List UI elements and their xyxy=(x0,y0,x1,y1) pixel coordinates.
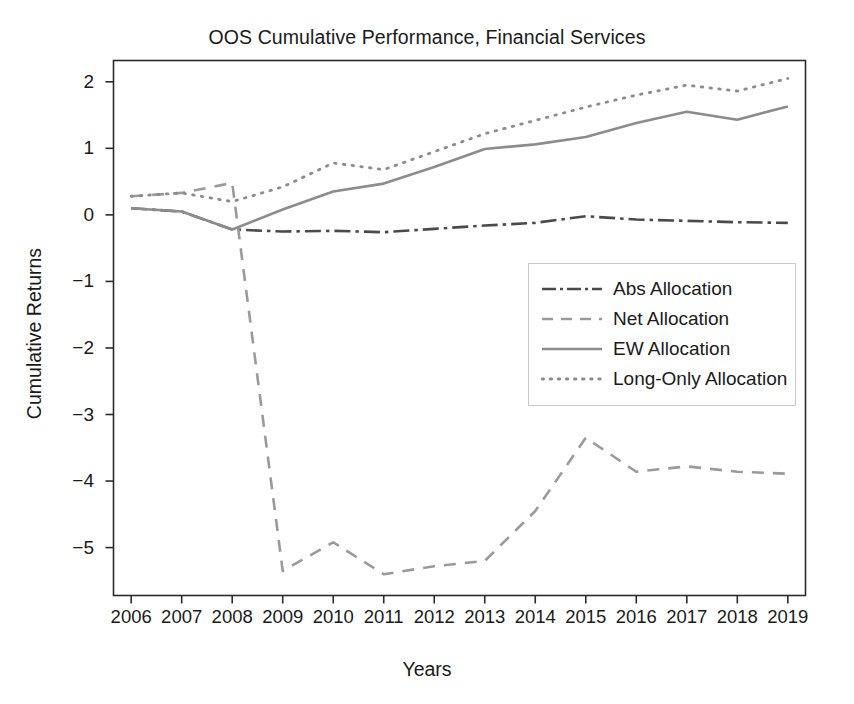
legend-label-net-allocation: Net Allocation xyxy=(613,308,729,330)
legend-label-ew-allocation: EW Allocation xyxy=(613,338,730,360)
legend-swatch-net-allocation xyxy=(541,310,603,328)
legend-label-abs-allocation: Abs Allocation xyxy=(613,278,732,300)
legend: Abs Allocation Net Allocation EW Allocat… xyxy=(528,263,796,406)
series-line-long-only-allocation xyxy=(131,78,788,201)
legend-label-long-only-allocation: Long-Only Allocation xyxy=(613,368,787,390)
legend-swatch-long-only-allocation xyxy=(541,370,603,388)
legend-item-long-only-allocation[interactable]: Long-Only Allocation xyxy=(541,364,783,394)
series-line-ew-allocation xyxy=(131,106,788,229)
legend-item-abs-allocation[interactable]: Abs Allocation xyxy=(541,274,783,304)
legend-item-net-allocation[interactable]: Net Allocation xyxy=(541,304,783,334)
legend-swatch-ew-allocation xyxy=(541,340,603,358)
legend-item-ew-allocation[interactable]: EW Allocation xyxy=(541,334,783,364)
chart-figure: OOS Cumulative Performance, Financial Se… xyxy=(0,0,854,704)
legend-swatch-abs-allocation xyxy=(541,280,603,298)
